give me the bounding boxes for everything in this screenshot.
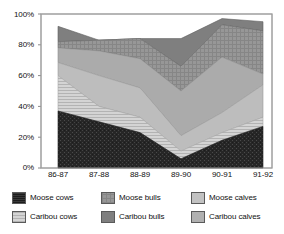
x-tick-87-88: 87-88 xyxy=(77,170,121,179)
legend-item-caribou-calves[interactable]: Caribou calves xyxy=(191,208,274,225)
legend-swatch-moose-cows xyxy=(12,192,26,204)
y-tick-100: 100% xyxy=(4,10,34,19)
x-tick-88-89: 88-89 xyxy=(118,170,162,179)
x-tick-91-92: 91-92 xyxy=(241,170,284,179)
x-tick-90-91: 90-91 xyxy=(200,170,244,179)
legend-label-moose-bulls: Moose bulls xyxy=(119,193,161,202)
legend-item-caribou-bulls[interactable]: Caribou bulls xyxy=(101,208,191,225)
legend-label-caribou-cows: Caribou cows xyxy=(30,212,77,221)
y-tick-0: 0% xyxy=(4,163,34,172)
legend-swatch-caribou-bulls xyxy=(101,211,115,223)
y-tick-60: 60% xyxy=(4,71,34,80)
x-tick-89-90: 89-90 xyxy=(159,170,203,179)
legend-item-caribou-cows[interactable]: Caribou cows xyxy=(12,208,101,225)
y-tick-80: 80% xyxy=(4,40,34,49)
stacked-area-plot xyxy=(0,0,284,180)
legend-label-moose-calves: Moose calves xyxy=(209,193,257,202)
legend-swatch-caribou-calves xyxy=(191,211,205,223)
y-tick-40: 40% xyxy=(4,102,34,111)
legend-label-caribou-calves: Caribou calves xyxy=(209,212,261,221)
legend-swatch-caribou-cows xyxy=(12,211,26,223)
chart-root: 100% 80% 60% 40% 20% 0% 86-87 87-88 88-8… xyxy=(0,0,284,234)
legend-item-moose-cows[interactable]: Moose cows xyxy=(12,189,101,206)
legend-swatch-moose-calves xyxy=(191,192,205,204)
legend-item-moose-bulls[interactable]: Moose bulls xyxy=(101,189,191,206)
legend-item-moose-calves[interactable]: Moose calves xyxy=(191,189,274,206)
legend-swatch-moose-bulls xyxy=(101,192,115,204)
legend-label-caribou-bulls: Caribou bulls xyxy=(119,212,164,221)
plot-area: 100% 80% 60% 40% 20% 0% 86-87 87-88 88-8… xyxy=(0,0,284,180)
chart-legend: Moose cows Moose bulls Moose calves Cari… xyxy=(12,188,274,228)
y-tick-20: 20% xyxy=(4,133,34,142)
x-tick-86-87: 86-87 xyxy=(36,170,80,179)
legend-label-moose-cows: Moose cows xyxy=(30,193,73,202)
